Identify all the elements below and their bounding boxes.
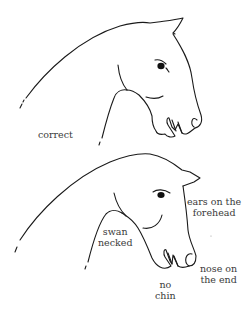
label-ears-line1: ears on the xyxy=(187,197,241,208)
label-swan-line1: swan xyxy=(98,227,133,238)
label-chin-line1: no xyxy=(155,280,176,291)
label-ears-on-forehead: ears on the forehead xyxy=(187,197,241,218)
diagram-canvas: correct swan necked ears on the forehead… xyxy=(0,0,252,316)
label-no-chin: no chin xyxy=(155,280,176,301)
label-chin-line2: chin xyxy=(155,291,176,302)
label-correct: correct xyxy=(38,130,73,141)
label-swan-line2: necked xyxy=(98,238,133,249)
label-swan-necked: swan necked xyxy=(98,227,133,248)
label-nose-on-end: nose on the end xyxy=(200,264,237,285)
eye-icon xyxy=(157,192,164,198)
label-ears-line2: forehead xyxy=(187,208,241,219)
label-nose-line1: nose on xyxy=(200,264,237,275)
label-nose-line2: the end xyxy=(200,275,237,286)
label-correct-text: correct xyxy=(38,129,73,140)
